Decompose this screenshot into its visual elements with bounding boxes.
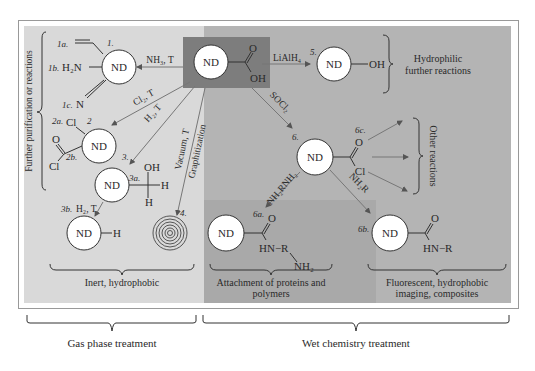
amine-group: H₂N xyxy=(62,61,82,73)
svg-text:ND: ND xyxy=(76,227,92,239)
center-oh-label: OH xyxy=(250,72,266,84)
reagent-1: NH₃, T xyxy=(146,55,174,65)
amide-6b-o: O xyxy=(431,212,439,224)
label-4: 4. xyxy=(180,208,187,218)
label-2: 2 xyxy=(87,116,92,126)
hydrogen-h: H xyxy=(113,227,121,239)
hydrophilic-label-2: further reactions xyxy=(405,65,471,76)
alcohol-oh: OH xyxy=(369,58,385,70)
label-6: 6. xyxy=(292,132,299,142)
proteins-label-2: polymers xyxy=(252,288,289,299)
brace-wet-chemistry xyxy=(203,315,509,331)
label-5: 5. xyxy=(310,47,317,57)
acyl-o: O xyxy=(52,133,60,145)
svg-text:ND: ND xyxy=(307,151,323,163)
label-6c: 6c. xyxy=(355,125,366,135)
amide-6b-hnr: HN−R xyxy=(423,242,453,254)
label-1: 1. xyxy=(107,38,114,48)
other-reactions-label: Other reactions xyxy=(428,125,439,186)
center-nd-label: ND xyxy=(203,56,219,68)
svg-text:ND: ND xyxy=(91,140,107,152)
label-6a: 6a. xyxy=(253,209,264,219)
amide-6a-hnr: HN−R xyxy=(259,242,289,254)
chloro-group: Cl xyxy=(66,116,76,128)
fluorescent-label-1: Fluorescent, hydrophobic xyxy=(386,277,489,288)
label-1c: 1c. xyxy=(62,100,73,110)
svg-text:ND: ND xyxy=(218,227,234,239)
inert-hydrophobic-label: Inert, hydrophobic xyxy=(85,277,160,288)
methyl-h-bottom: H xyxy=(145,196,153,208)
svg-text:ND: ND xyxy=(111,61,127,73)
svg-text:ND: ND xyxy=(104,179,120,191)
label-2b: 2b. xyxy=(66,152,77,162)
side-brace-label: Further purification or reactions xyxy=(24,50,34,172)
acid-chloride-o: O xyxy=(355,136,363,148)
label-2a: 2a. xyxy=(52,116,63,126)
svg-text:ND: ND xyxy=(382,227,398,239)
hydrophilic-label-1: Hydrophilic xyxy=(414,53,463,64)
proteins-label-1: Attachment of proteins and xyxy=(216,277,325,288)
reagent-5: LiAlH₄ xyxy=(273,53,301,63)
reaction-diagram: ND O OH Further purification or reaction… xyxy=(0,0,535,371)
hydroxyl-oh: OH xyxy=(144,161,160,173)
reagent-3b: H₂, T xyxy=(76,204,97,214)
wet-chemistry-label: Wet chemistry treatment xyxy=(302,337,410,349)
acyl-cl: Cl xyxy=(49,160,59,172)
methyl-h-right: H xyxy=(161,179,169,191)
gas-phase-label: Gas phase treatment xyxy=(67,337,156,349)
label-6b: 6b. xyxy=(358,224,369,234)
svg-text:ND: ND xyxy=(326,58,342,70)
fluorescent-label-2: imaging, composites xyxy=(396,288,479,299)
label-3b: 3b. xyxy=(60,204,72,214)
label-3: 3. xyxy=(121,152,129,162)
nitrile-n: N xyxy=(76,98,84,110)
brace-gas-phase xyxy=(27,315,196,331)
center-o-label: O xyxy=(249,42,257,54)
label-1a: 1a. xyxy=(57,39,68,49)
label-1b: 1b. xyxy=(48,63,59,73)
label-3a: 3a. xyxy=(128,173,140,183)
amide-6a-o: O xyxy=(268,212,276,224)
